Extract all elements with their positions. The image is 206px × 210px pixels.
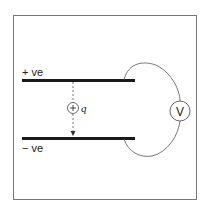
diagram-frame	[14, 16, 197, 200]
positive-plate-label: + ve	[22, 66, 43, 78]
voltmeter-label: V	[176, 105, 184, 119]
arrow-head-icon	[71, 131, 76, 136]
capacitor-diagram: + ve − ve q V	[0, 0, 206, 210]
positive-plate	[22, 79, 135, 82]
negative-plate-label: − ve	[22, 142, 43, 154]
negative-plate	[22, 137, 135, 140]
charge-label: q	[81, 102, 87, 114]
